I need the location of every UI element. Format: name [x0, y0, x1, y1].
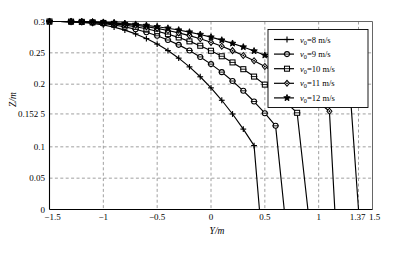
x-axis-title: Y/m: [210, 226, 225, 236]
marker-diamond-dot: [210, 41, 212, 43]
y-axis-tick-label: 0.152 5: [18, 109, 46, 119]
y-axis-tick-label: 0.3: [34, 17, 46, 27]
chart-figure: −1.5−1−0.500.511.371.500.050.10.152 50.2…: [0, 0, 402, 265]
marker-diamond-dot: [264, 66, 266, 68]
legend: v0=8 m/sv0=9 m/sv0=10 m/sv0=11 m/sv0=12 …: [268, 30, 368, 108]
marker-diamond-dot: [242, 55, 244, 57]
y-axis-tick-label: 0.05: [29, 173, 45, 183]
marker-diamond-dot: [286, 82, 288, 84]
legend-sample-marker: [284, 52, 291, 57]
y-axis-tick-label: 0: [41, 205, 46, 215]
marker-diamond-dot: [253, 60, 255, 62]
legend-label-value: =10 m/s: [307, 64, 336, 74]
legend-sample-marker: [284, 66, 291, 71]
trajectory-chart: −1.5−1−0.500.511.371.500.050.10.152 50.2…: [0, 0, 402, 265]
legend-label-value: =12 m/s: [307, 93, 336, 103]
marker-diamond-dot: [221, 45, 223, 47]
legend-label-value: =11 m/s: [307, 78, 335, 88]
x-axis-tick-label: 1.5: [369, 212, 381, 222]
x-axis-tick-label: 0: [209, 212, 214, 222]
x-axis-tick-label: −1.5: [44, 212, 61, 222]
x-axis-tick-label: 1: [316, 212, 321, 222]
marker-diamond-dot: [232, 50, 234, 52]
y-axis-tick-label: 0.2: [34, 79, 45, 89]
y-axis-tick-label: 0.1: [34, 142, 45, 152]
marker-diamond-dot: [329, 110, 331, 112]
y-axis-title: Z/m: [8, 92, 18, 107]
x-axis-tick-label: −0.5: [149, 212, 166, 222]
legend-label-value: =9 m/s: [307, 49, 331, 59]
x-axis-tick-label: 1.37: [350, 212, 366, 222]
x-axis-tick-label: 0.5: [259, 212, 271, 222]
marker-diamond-dot: [189, 35, 191, 37]
y-axis-tick-label: 0.25: [29, 48, 45, 58]
legend-label-value: =8 m/s: [307, 35, 331, 45]
marker-diamond-dot: [199, 38, 201, 40]
x-axis-tick-label: −1: [99, 212, 109, 222]
